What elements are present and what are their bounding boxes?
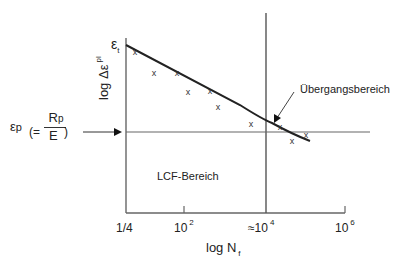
epsilon-t-label: εt: [111, 36, 119, 52]
y-axis-label-sup: pl: [94, 56, 103, 62]
x-tick-exp: 2: [189, 218, 193, 227]
transition-region-label: Übergangsbereich: [300, 83, 390, 95]
svg-text:x: x: [216, 102, 221, 112]
svg-text:x: x: [152, 68, 157, 78]
x-tick-exp: 4: [270, 218, 274, 227]
ep-sub: p: [16, 121, 22, 133]
lcf-region-label: LCF-Bereich: [157, 170, 219, 182]
y-axis-label-text: log Δε: [96, 65, 111, 100]
x-axis-label: log Nf: [206, 240, 241, 255]
x-tick-base: 10: [174, 221, 187, 235]
x-tick-base: ≈10: [248, 221, 268, 235]
y-axis-label: log Δεpl: [96, 56, 111, 100]
svg-text:x: x: [304, 130, 309, 140]
ep-formula-denominator: E: [49, 128, 58, 143]
x-tick-10e2: 102: [174, 221, 194, 235]
x-axis-label-text: log N: [206, 240, 236, 255]
svg-text:x: x: [133, 47, 138, 57]
ep-formula-num: R: [49, 110, 58, 125]
svg-text:x: x: [290, 136, 295, 146]
ep-formula-close: ): [64, 125, 68, 139]
x-tick-base: 1/4: [116, 221, 133, 235]
ep-formula-numerator: Rp: [46, 110, 66, 125]
ep-formula-num-sub: p: [58, 113, 64, 124]
x-tick-10e6: 106: [335, 221, 355, 235]
svg-text:x: x: [186, 87, 191, 97]
ep-label: εp: [10, 119, 22, 134]
svg-text:x: x: [278, 122, 283, 132]
svg-text:x: x: [175, 68, 180, 78]
x-tick-base: 10: [335, 221, 348, 235]
svg-text:x: x: [249, 119, 254, 129]
fit-curve: [126, 45, 310, 141]
ep-arrow-head-icon: [114, 128, 122, 136]
x-axis-label-sub: f: [238, 249, 240, 258]
transition-arrow-shaft: [277, 92, 294, 118]
svg-text:x: x: [208, 86, 213, 96]
x-tick-10e4: ≈104: [248, 221, 274, 235]
x-tick-1-4: 1/4: [116, 221, 133, 235]
ep-formula-open: (=: [29, 125, 40, 139]
x-tick-exp: 6: [350, 218, 354, 227]
